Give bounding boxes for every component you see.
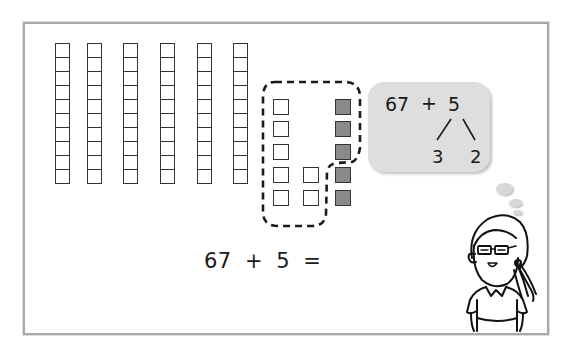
girl-character-icon bbox=[0, 0, 565, 349]
